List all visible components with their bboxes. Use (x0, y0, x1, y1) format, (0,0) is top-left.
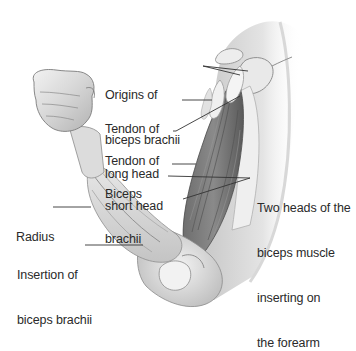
label-insertion-line2: biceps brachii (17, 313, 92, 328)
label-biceps-line1: Biceps (105, 187, 142, 202)
label-insertion-of-biceps-brachii: Insertion of biceps brachii (17, 238, 92, 343)
label-two-heads-of-biceps: Two heads of the biceps muscle inserting… (257, 171, 351, 351)
label-two-heads-line2: biceps muscle (257, 246, 351, 261)
fist (33, 70, 104, 179)
label-two-heads-line1: Two heads of the (257, 201, 351, 216)
label-insertion-line1: Insertion of (17, 268, 92, 283)
label-biceps-brachii: Biceps brachii (105, 157, 142, 262)
label-two-heads-line4: the forearm (257, 336, 351, 351)
label-biceps-line2: brachii (105, 232, 142, 247)
label-two-heads-line3: inserting on (257, 291, 351, 306)
